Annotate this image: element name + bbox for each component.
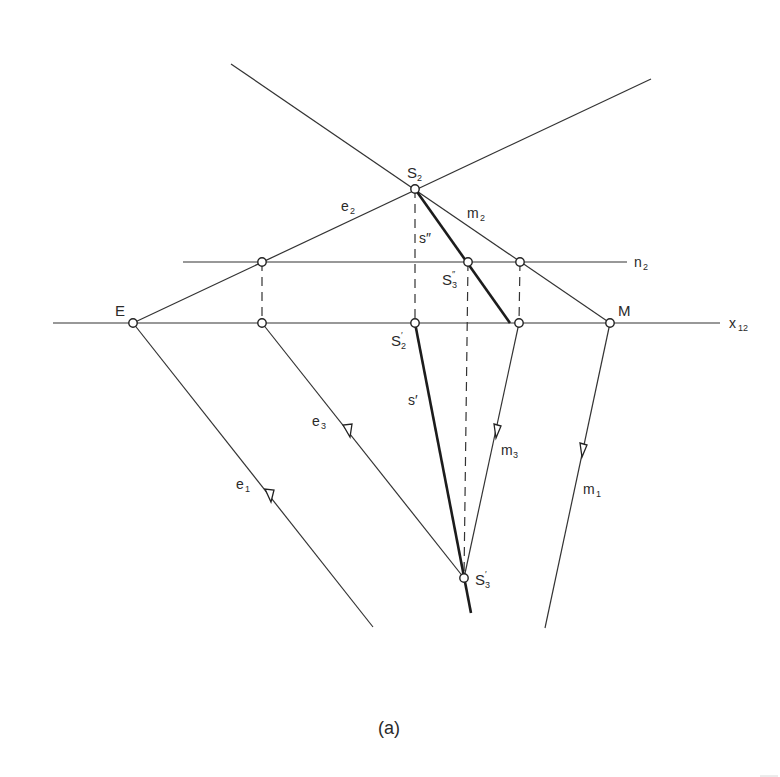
label-S2: S 2 (407, 164, 422, 183)
s-prime-line (415, 323, 471, 613)
label-S3-double-prime: S ″ 3 (442, 269, 457, 290)
svg-text:m: m (583, 481, 595, 497)
svg-text:3: 3 (452, 280, 457, 290)
svg-text:x: x (729, 315, 736, 331)
label-S2-prime: S ′ 2 (391, 330, 406, 351)
point-m-on-n2 (516, 258, 524, 266)
label-m3: m 3 (501, 442, 518, 460)
svg-text:2: 2 (417, 173, 422, 183)
svg-text:″: ″ (452, 269, 456, 279)
svg-text:e: e (312, 413, 320, 429)
svg-text:3: 3 (485, 580, 490, 590)
descriptive-geometry-figure: E M x 12 n 2 S 2 e 2 m 2 s″ S ″ 3 S (0, 0, 780, 777)
svg-text:′: ′ (485, 569, 487, 579)
label-M: M (618, 302, 631, 319)
point-M (606, 319, 614, 327)
point-S3-double-prime (464, 258, 472, 266)
figure-caption: (a) (378, 718, 400, 738)
svg-text:′: ′ (401, 330, 403, 340)
svg-text:S: S (407, 164, 417, 181)
ordinal-line-s3 (464, 262, 468, 578)
label-m1: m 1 (583, 481, 601, 499)
e3-line (262, 323, 464, 578)
svg-text:2: 2 (643, 262, 648, 272)
s-double-prime-line (415, 189, 510, 323)
svg-text:2: 2 (350, 206, 355, 216)
label-s-prime: s′ (408, 392, 418, 408)
svg-text:S: S (475, 571, 485, 588)
label-S3-prime: S ′ 3 (475, 569, 490, 590)
svg-text:m: m (467, 205, 479, 221)
svg-text:2: 2 (401, 341, 406, 351)
label-e2: e 2 (341, 198, 355, 216)
point-S3-prime (460, 574, 468, 582)
svg-text:2: 2 (480, 213, 485, 223)
point-E (129, 319, 137, 327)
figure-drawing: E M x 12 n 2 S 2 e 2 m 2 s″ S ″ 3 S (0, 0, 780, 777)
arrow-m1-icon (580, 443, 587, 457)
m2-line (231, 64, 610, 323)
e2-line (133, 79, 651, 323)
svg-text:e: e (236, 476, 244, 492)
svg-text:12: 12 (738, 323, 748, 333)
svg-text:S: S (391, 332, 401, 349)
label-m2: m 2 (467, 205, 485, 223)
point-e-on-n2 (258, 258, 266, 266)
label-x12: x 12 (729, 315, 748, 333)
point-S2 (411, 185, 419, 193)
svg-text:1: 1 (596, 489, 601, 499)
svg-text:e: e (341, 198, 349, 214)
label-n2: n 2 (634, 254, 648, 272)
point-e-on-x12 (258, 319, 266, 327)
point-m-on-x12 (515, 319, 523, 327)
svg-text:S: S (442, 271, 452, 288)
arrow-m3-icon (494, 424, 501, 438)
svg-text:3: 3 (513, 450, 518, 460)
label-e1: e 1 (236, 476, 250, 494)
label-s-double-prime: s″ (419, 230, 431, 246)
label-E: E (115, 302, 125, 319)
label-e3: e 3 (312, 413, 326, 431)
ordinal-line-right (519, 262, 520, 323)
point-S2-prime (411, 319, 419, 327)
svg-text:1: 1 (245, 484, 250, 494)
svg-text:3: 3 (321, 421, 326, 431)
arrow-e3-icon (343, 424, 352, 437)
m1-line (545, 323, 610, 628)
svg-text:m: m (501, 442, 513, 458)
svg-text:n: n (634, 254, 642, 270)
e1-line (133, 323, 373, 627)
